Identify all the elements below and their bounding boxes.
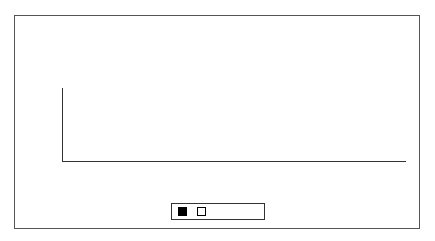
legend-swatch-black-icon	[178, 207, 187, 216]
legend-swatch-white-icon	[197, 207, 206, 216]
legend-item-blacks	[178, 207, 190, 216]
legend	[171, 203, 265, 220]
legend-item-whites	[197, 207, 209, 216]
plot-area	[62, 88, 406, 162]
